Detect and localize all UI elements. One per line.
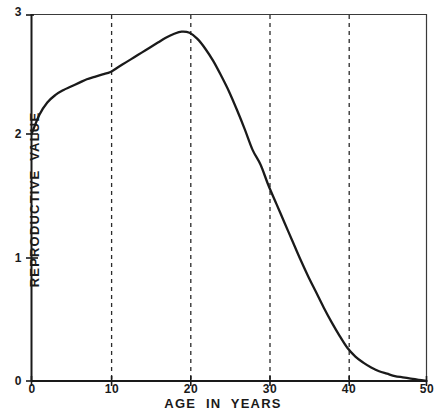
gridlines	[112, 15, 350, 381]
x-tick-label-50: 50	[412, 382, 442, 396]
x-tick-label-40: 40	[334, 382, 364, 396]
y-tick-label-1: 1	[4, 251, 22, 265]
x-axis-title: AGE IN YEARS	[0, 396, 446, 411]
x-tick-label-10: 10	[97, 382, 127, 396]
x-tick-label-0: 0	[17, 382, 47, 396]
y-axis-title: REPRODUCTIVE VALUE	[27, 95, 42, 305]
reproductive-value-curve	[32, 32, 427, 381]
y-tick-label-3: 3	[4, 5, 22, 19]
y-tick-label-2: 2	[4, 127, 22, 141]
x-tick-label-30: 30	[255, 382, 285, 396]
chart-canvas	[0, 0, 446, 419]
axis-lines	[31, 14, 427, 381]
x-tick-label-20: 20	[176, 382, 206, 396]
reproductive-value-chart: 0 1 2 3 0 10 20 30 40 50 AGE IN YEARS RE…	[0, 0, 446, 419]
